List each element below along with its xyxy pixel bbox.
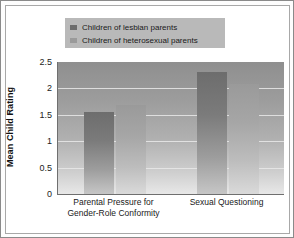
legend-swatch-icon-series-0: [70, 25, 77, 30]
legend-label-series-0: Children of lesbian parents: [82, 23, 177, 32]
legend-item-0: Children of lesbian parents: [70, 21, 220, 33]
y-axis-title-text: Mean Child Rating: [5, 86, 15, 166]
x-axis-category-labels: Parental Pressure for Gender-Role Confor…: [57, 197, 284, 231]
bar-0-1[interactable]: [116, 105, 146, 194]
legend-swatch-icon-series-1: [70, 38, 77, 43]
y-tick-label-1: 1: [47, 136, 52, 146]
legend-label-series-1: Children of heterosexual parents: [82, 36, 198, 45]
y-tick-label-0.5: 0.5: [39, 163, 52, 173]
bar-1-1[interactable]: [229, 84, 259, 194]
y-tick-label-0: 0: [47, 189, 52, 199]
chart-figure: Children of lesbian parents Children of …: [0, 0, 294, 238]
bar-1-0[interactable]: [197, 72, 227, 194]
x-category-label-0: Parental Pressure for Gender-Role Confor…: [57, 197, 170, 219]
y-tick-label-1.5: 1.5: [39, 110, 52, 120]
y-tick-label-2.5: 2.5: [39, 57, 52, 67]
x-category-label-1: Sexual Questioning: [170, 197, 283, 208]
plot-area: [57, 62, 284, 195]
y-axis-title: Mean Child Rating: [3, 59, 17, 194]
y-axis-tick-labels: 00.511.522.5: [19, 57, 55, 198]
bar-0-0[interactable]: [84, 112, 114, 194]
chart-legend: Children of lesbian parents Children of …: [65, 18, 225, 48]
y-tick-label-2: 2: [47, 83, 52, 93]
legend-item-1: Children of heterosexual parents: [70, 34, 220, 46]
